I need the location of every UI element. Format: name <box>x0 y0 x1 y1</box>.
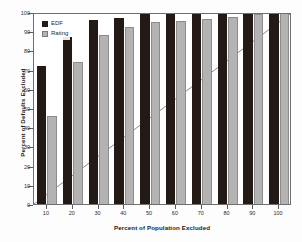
bar-edf <box>192 13 202 204</box>
bar-group <box>166 14 186 204</box>
bar-series-layer <box>34 14 290 204</box>
x-axis-tick <box>123 205 124 209</box>
legend-swatch-edf-icon <box>42 21 48 27</box>
bar-edf <box>63 37 73 204</box>
x-axis-tick <box>175 205 176 209</box>
bar-rating <box>202 19 212 204</box>
y-axis-tick-label: 0 <box>8 202 30 208</box>
bar-edf <box>37 66 47 204</box>
x-axis-tick <box>149 205 150 209</box>
bar-group <box>89 14 109 204</box>
bar-rating <box>254 14 264 204</box>
bar-group <box>243 14 263 204</box>
x-axis-tick-label: 60 <box>162 210 188 217</box>
bar-rating <box>99 35 109 204</box>
x-axis-tick-label: 90 <box>239 210 265 217</box>
x-axis-tick <box>201 205 202 209</box>
x-axis-title: Percent of Population Excluded <box>33 224 291 231</box>
bar-edf <box>166 13 176 204</box>
x-axis-tick-label: 100 <box>265 210 291 217</box>
x-axis-tick-label: 40 <box>110 210 136 217</box>
bar-group <box>114 14 134 204</box>
bar-rating <box>151 22 161 204</box>
x-axis-tick <box>227 205 228 209</box>
legend-item-rating: Rating <box>42 29 68 38</box>
bar-edf <box>243 13 253 204</box>
bar-rating <box>176 21 186 204</box>
x-axis-tick-label: 20 <box>59 210 85 217</box>
bar-group <box>63 14 83 204</box>
bar-edf <box>140 13 150 204</box>
x-axis-tick-label: 30 <box>85 210 111 217</box>
y-axis-tick-label: 10 <box>8 183 30 189</box>
plot-area: EDF Rating <box>33 13 291 205</box>
bar-edf <box>114 18 124 204</box>
x-axis-tick-label: 10 <box>33 210 59 217</box>
x-axis-tick-label: 50 <box>136 210 162 217</box>
legend-item-edf: EDF <box>42 19 68 28</box>
bar-edf <box>269 13 279 204</box>
y-axis-title: Percent of Defaults Excluded <box>19 43 26 183</box>
y-axis-tick-label: 100 <box>8 10 30 16</box>
x-axis-tick-label: 80 <box>214 210 240 217</box>
chart-legend: EDF Rating <box>40 18 70 40</box>
chart-container: 0102030405060708090100 EDF Rating 102030… <box>0 0 302 242</box>
bar-rating <box>73 62 83 204</box>
bar-group <box>140 14 160 204</box>
x-axis-tick-label: 70 <box>188 210 214 217</box>
bar-rating <box>228 17 238 204</box>
y-axis-tick-label: 90 <box>8 29 30 35</box>
bar-group <box>218 14 238 204</box>
bar-rating <box>125 27 135 204</box>
legend-swatch-rating-icon <box>42 31 48 37</box>
legend-label-edf: EDF <box>51 20 63 27</box>
x-axis-tick <box>46 205 47 209</box>
bar-edf <box>89 20 99 204</box>
bar-group <box>37 14 57 204</box>
bar-group <box>192 14 212 204</box>
bar-rating <box>47 116 57 204</box>
bar-edf <box>218 13 228 204</box>
bar-rating <box>280 13 290 204</box>
x-axis-tick <box>98 205 99 209</box>
x-axis-tick <box>252 205 253 209</box>
x-axis-tick <box>72 205 73 209</box>
legend-label-rating: Rating <box>51 30 68 37</box>
bar-group <box>269 14 289 204</box>
x-axis-tick <box>278 205 279 209</box>
